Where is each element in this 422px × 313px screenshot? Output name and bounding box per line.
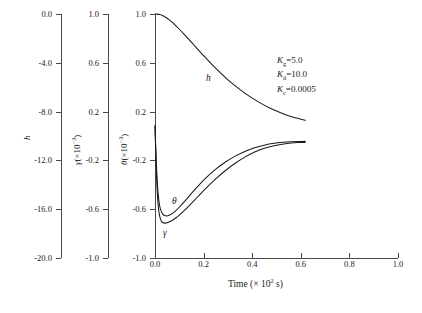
curve-label-h: h	[206, 73, 211, 83]
parameter-line: Kc=0.0005	[277, 84, 316, 98]
figure: 0.0 -4.0 -8.0 -12.0 -16.0 -20.0 h 1.0 0.…	[0, 0, 422, 313]
curve-theta	[155, 126, 306, 216]
parameter-line: Kd=10.0	[277, 69, 316, 83]
plot-curves	[0, 0, 422, 313]
parameter-value: 5.0	[291, 55, 302, 65]
curve-label-theta: θ	[172, 196, 177, 206]
parameter-line: Kg=5.0	[277, 55, 316, 69]
parameter-annotation: Kg=5.0 Kd=10.0 Kc=0.0005	[277, 55, 316, 98]
parameter-value: 0.0005	[291, 84, 316, 94]
curve-label-gamma: γ	[163, 228, 167, 238]
parameter-value: 10.0	[291, 69, 307, 79]
